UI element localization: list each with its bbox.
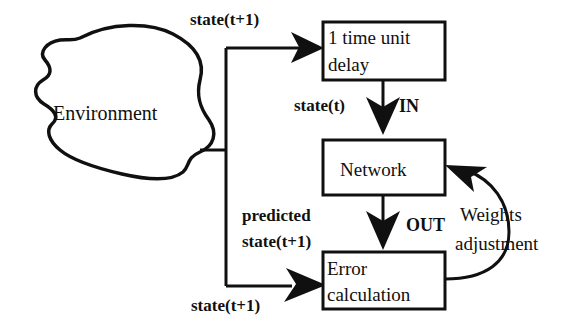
- network-label: Network: [340, 159, 407, 180]
- weights-adjustment-curve: [445, 171, 509, 279]
- label-state-t-plus-1-top: state(t+1): [190, 10, 259, 29]
- edge-delay-to-network: [366, 80, 400, 135]
- label-state-t-plus-1-bottom: state(t+1): [191, 296, 260, 315]
- error-label-line1: Error: [327, 258, 368, 279]
- node-error: Error calculation: [323, 252, 445, 309]
- diagram-svg: Environment 1 time unit delay: [0, 0, 579, 324]
- label-state-t: state(t): [294, 96, 345, 115]
- error-label-line2: calculation: [327, 284, 411, 305]
- label-in: IN: [399, 96, 419, 116]
- label-out: OUT: [406, 215, 445, 235]
- diagram-canvas: Environment 1 time unit delay: [0, 0, 579, 324]
- node-network: Network: [323, 140, 445, 195]
- delay-label-line2: delay: [328, 54, 370, 75]
- label-weights-line1: Weights: [460, 204, 522, 225]
- label-weights-line2: adjustment: [455, 233, 539, 254]
- environment-label: Environment: [53, 102, 158, 124]
- node-delay: 1 time unit delay: [323, 22, 445, 80]
- label-predicted-line1: predicted: [242, 206, 311, 225]
- edge-network-to-error: [366, 195, 400, 250]
- delay-label-line1: 1 time unit: [328, 27, 411, 48]
- label-predicted-line2: state(t+1): [242, 232, 311, 251]
- node-environment: Environment: [36, 25, 214, 178]
